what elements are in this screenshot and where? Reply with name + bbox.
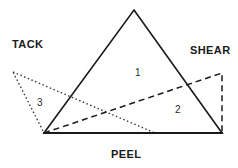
region-label-2: 2 [175,105,181,115]
axis-label-shear: SHEAR [190,45,231,56]
axis-label-peel: PEEL [111,149,141,160]
region-label-1: 1 [135,68,141,78]
region-label-3: 3 [37,98,43,108]
property-triangle-diagram: TACK SHEAR PEEL 1 2 3 [0,0,238,168]
formulation-1-solid-triangle [44,10,222,133]
diagram-canvas [0,0,238,168]
axis-label-tack: TACK [12,39,43,50]
formulation-2-dashed-quadrilateral [44,73,222,133]
